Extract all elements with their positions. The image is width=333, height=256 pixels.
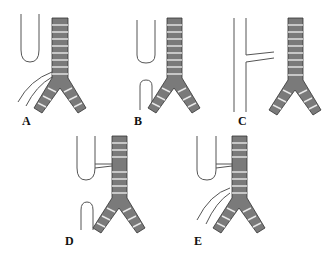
panel-label-d: D bbox=[65, 234, 74, 249]
panel-label-a: A bbox=[22, 114, 31, 129]
trachea-diagram-b bbox=[111, 0, 222, 128]
panel-a: A bbox=[0, 0, 111, 128]
panel-label-b: B bbox=[134, 114, 142, 129]
trachea-diagram-c bbox=[222, 0, 333, 128]
trachea-diagram-d bbox=[60, 128, 171, 256]
panel-b: B bbox=[111, 0, 222, 128]
panel-c: C bbox=[222, 0, 333, 128]
panel-label-c: C bbox=[238, 114, 247, 129]
panel-d: D bbox=[60, 128, 171, 256]
panel-label-e: E bbox=[194, 234, 202, 249]
trachea-diagram-e bbox=[170, 128, 281, 256]
trachea-diagram-a bbox=[0, 0, 111, 128]
panel-e: E bbox=[170, 128, 281, 256]
